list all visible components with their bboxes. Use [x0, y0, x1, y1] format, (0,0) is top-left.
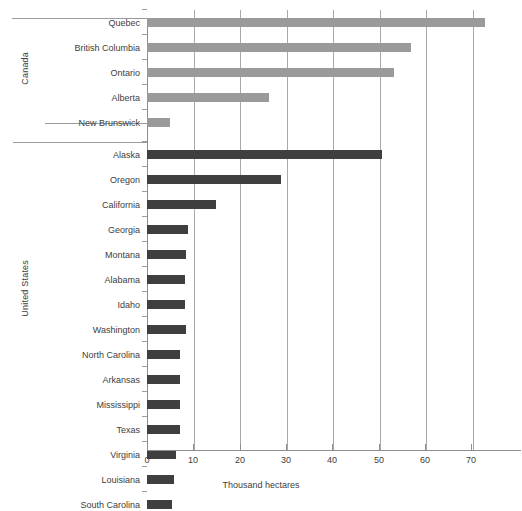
bar	[147, 375, 180, 384]
category-tick	[142, 391, 147, 392]
category-tick	[142, 466, 147, 467]
category-tick	[142, 341, 147, 342]
category-label: Idaho	[0, 300, 140, 311]
bar	[147, 450, 176, 459]
bar	[147, 93, 269, 102]
x-tick-label: 0	[144, 455, 149, 465]
category-label: Quebec	[0, 18, 140, 29]
bar	[147, 275, 185, 284]
category-label: Arkansas	[0, 375, 140, 386]
x-tick	[379, 444, 380, 451]
category-label: Georgia	[0, 225, 140, 236]
category-tick	[142, 316, 147, 317]
x-tick-label: 50	[374, 455, 384, 465]
x-tick-label: 30	[281, 455, 291, 465]
category-tick	[142, 366, 147, 367]
category-tick	[142, 441, 147, 442]
x-tick-label: 60	[420, 455, 430, 465]
category-label: Mississippi	[0, 400, 140, 411]
category-tick	[142, 216, 147, 217]
x-axis-title: Thousand hectares	[0, 480, 522, 490]
bar	[147, 350, 180, 359]
plot-area: Quebec British Columbia Ontario Alberta …	[147, 10, 513, 450]
category-tick	[142, 491, 147, 492]
category-tick	[142, 416, 147, 417]
x-tick	[332, 444, 333, 451]
bar	[147, 300, 185, 309]
bar	[147, 425, 180, 434]
category-tick	[142, 166, 147, 167]
bar	[147, 150, 382, 159]
category-label: North Carolina	[0, 350, 140, 361]
x-tick	[193, 444, 194, 451]
category-tick	[142, 109, 147, 110]
category-label: Texas	[0, 425, 140, 436]
x-tick-label: 20	[235, 455, 245, 465]
category-tick	[142, 34, 147, 35]
category-tick	[142, 191, 147, 192]
gridline-70	[473, 10, 474, 450]
bar	[147, 225, 188, 234]
category-label: California	[0, 200, 140, 211]
x-tick	[147, 444, 148, 451]
bar	[147, 68, 394, 77]
bar	[147, 43, 411, 52]
category-label: Virginia	[0, 450, 140, 461]
category-tick	[142, 59, 147, 60]
x-tick-label: 40	[327, 455, 337, 465]
category-label: Alberta	[0, 93, 140, 104]
category-label: British Columbia	[0, 43, 140, 54]
bar	[147, 18, 485, 27]
category-label: Alabama	[0, 275, 140, 286]
x-axis-line	[147, 450, 521, 451]
category-label: Alaska	[0, 150, 140, 161]
category-label: Washington	[0, 325, 140, 336]
bar	[147, 118, 170, 127]
x-tick	[425, 444, 426, 451]
bar	[147, 200, 216, 209]
category-tick	[142, 9, 147, 10]
x-tick	[240, 444, 241, 451]
category-label: Ontario	[0, 68, 140, 79]
us-bracket-top	[13, 142, 147, 143]
category-label: New Brunswick	[0, 118, 140, 129]
bar	[147, 175, 281, 184]
x-tick	[471, 444, 472, 451]
x-tick-label: 10	[188, 455, 198, 465]
bar	[147, 400, 180, 409]
bar	[147, 250, 186, 259]
category-tick	[142, 291, 147, 292]
bar	[147, 325, 186, 334]
x-tick-label: 70	[466, 455, 476, 465]
gridline-60	[426, 10, 427, 450]
bar	[147, 500, 172, 509]
x-tick	[286, 444, 287, 451]
category-label: South Carolina	[0, 500, 140, 511]
category-tick	[142, 241, 147, 242]
category-tick	[142, 84, 147, 85]
category-label: Oregon	[0, 175, 140, 186]
category-tick	[142, 266, 147, 267]
category-label: Montana	[0, 250, 140, 261]
category-tick	[142, 141, 147, 142]
